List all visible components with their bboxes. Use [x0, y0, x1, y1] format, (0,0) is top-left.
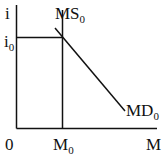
origin-label: 0	[5, 135, 14, 154]
money-demand-label: MD0	[126, 101, 159, 122]
x-axis-label: M	[146, 135, 161, 154]
money-supply-label: MS0	[55, 4, 86, 25]
money-market-diagram: i i0 MS0 MD0 0 M0 M	[0, 0, 165, 156]
equilibrium-rate-label: i0	[4, 32, 15, 53]
y-axis-label: i	[5, 4, 10, 23]
equilibrium-quantity-label: M0	[53, 135, 74, 156]
money-demand-curve	[55, 28, 125, 111]
